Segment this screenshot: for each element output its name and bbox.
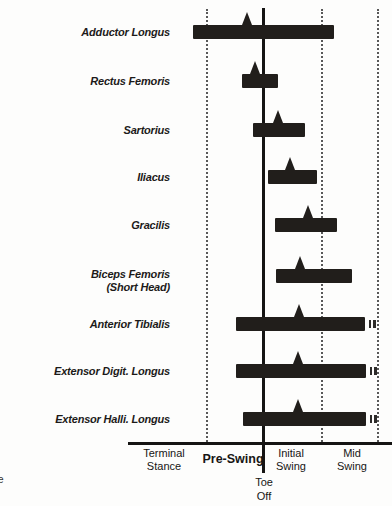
peak-triangle-icon-iliacus	[285, 157, 295, 170]
timeline-axis	[128, 442, 392, 445]
continuation-dash-anterior-tibialis-1	[373, 320, 376, 328]
phase-boundary-gridline	[206, 9, 208, 442]
peak-triangle-icon-adductor-longus	[242, 12, 252, 25]
continuation-dash-extensor-digit-longus-1	[374, 367, 377, 375]
muscle-label-adductor-longus: Adductor Longus	[0, 26, 170, 39]
muscle-label-extensor-digit-longus: Extensor Digit. Longus	[0, 365, 170, 378]
activity-bar-iliacus	[268, 170, 317, 184]
activity-bar-extensor-digit-longus	[236, 364, 366, 378]
activity-bar-biceps-femoris	[276, 269, 352, 283]
peak-triangle-icon-rectus-femoris	[250, 61, 260, 74]
phase-boundary-gridline	[377, 9, 379, 442]
peak-triangle-icon-extensor-halli-longus	[293, 399, 303, 412]
peak-triangle-icon-gracilis	[303, 205, 313, 218]
continuation-dash-anterior-tibialis-0	[369, 320, 372, 328]
muscle-label-gracilis: Gracilis	[0, 219, 170, 232]
activity-bar-anterior-tibialis	[236, 317, 365, 331]
continuation-dash-extensor-digit-longus-0	[370, 367, 373, 375]
continuation-dash-extensor-halli-longus-0	[370, 415, 373, 423]
gait-muscle-timing-chart: e Terminal StancePre-SwingInitial SwingM…	[0, 0, 392, 506]
toe-off-label: Toe Off	[255, 475, 273, 503]
peak-triangle-icon-anterior-tibialis	[294, 304, 304, 317]
peak-triangle-icon-sartorius	[273, 110, 283, 123]
peak-triangle-icon-extensor-digit-longus	[293, 351, 303, 364]
muscle-label-sartorius: Sartorius	[0, 124, 170, 137]
phase-label-mid-swing: Mid Swing	[337, 447, 367, 473]
phase-label-pre-swing: Pre-Swing	[202, 453, 263, 466]
activity-bar-adductor-longus	[193, 25, 334, 39]
muscle-label-extensor-halli-longus: Extensor Halli. Longus	[0, 413, 170, 426]
continuation-dash-extensor-halli-longus-1	[374, 415, 377, 423]
activity-bar-extensor-halli-longus	[243, 412, 366, 426]
muscle-label-iliacus: Iliacus	[0, 171, 170, 184]
activity-bar-sartorius	[253, 123, 305, 137]
peak-triangle-icon-biceps-femoris	[295, 256, 305, 269]
phase-label-terminal-stance: Terminal Stance	[143, 447, 185, 473]
muscle-label-anterior-tibialis: Anterior Tibialis	[0, 318, 170, 331]
caption-fragment: e	[0, 474, 4, 485]
activity-bar-rectus-femoris	[242, 74, 278, 88]
activity-bar-gracilis	[275, 218, 337, 232]
muscle-label-biceps-femoris: Biceps Femoris (Short Head)	[0, 268, 170, 294]
phase-label-initial-swing: Initial Swing	[276, 447, 306, 473]
muscle-label-rectus-femoris: Rectus Femoris	[0, 75, 170, 88]
